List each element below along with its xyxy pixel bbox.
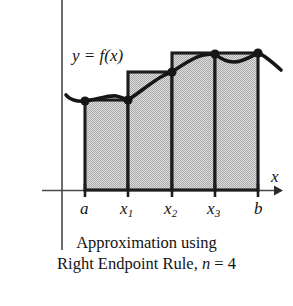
sample-point-x1	[123, 95, 132, 104]
caption-line-2: Right Endpoint Rule, n = 4	[0, 253, 293, 274]
tick-label-a-text: a	[80, 199, 89, 218]
figure-caption: Approximation using Right Endpoint Rule,…	[0, 232, 293, 275]
tick-label-b: b	[254, 200, 263, 217]
tick-label-x2: x2	[164, 200, 177, 219]
riemann-rectangle-1	[85, 100, 128, 190]
riemann-rectangle-3	[172, 53, 215, 190]
tick-label-x1-sub: 1	[128, 207, 134, 219]
sample-point-b	[253, 48, 262, 57]
riemann-sum-figure: y = f(x) x a x1 x2 x3 b Approximation us…	[0, 0, 293, 306]
x-axis-arrowhead	[274, 186, 283, 196]
tick-label-x1-text: x	[120, 199, 128, 218]
tick-label-a: a	[80, 200, 89, 217]
x-axis-label: x	[271, 168, 279, 185]
tick-label-x2-text: x	[164, 199, 172, 218]
tick-label-x1: x1	[120, 200, 133, 219]
tick-label-x2-sub: 2	[172, 207, 178, 219]
tick-label-x3-sub: 3	[215, 207, 221, 219]
function-label: y = f(x)	[72, 47, 123, 64]
sample-point-a	[80, 96, 89, 105]
sample-point-x3	[210, 49, 219, 58]
tick-label-x3-text: x	[207, 199, 215, 218]
tick-label-x3: x3	[207, 200, 220, 219]
riemann-rectangle-4	[215, 53, 258, 190]
sample-point-x2	[167, 67, 176, 76]
caption-line-2-suffix: = 4	[210, 254, 236, 273]
riemann-rectangle-2	[128, 72, 172, 190]
caption-line-2-var: n	[202, 254, 210, 273]
caption-line-1: Approximation using	[0, 232, 293, 253]
tick-label-b-text: b	[254, 199, 263, 218]
caption-line-2-prefix: Right Endpoint Rule,	[57, 254, 202, 273]
